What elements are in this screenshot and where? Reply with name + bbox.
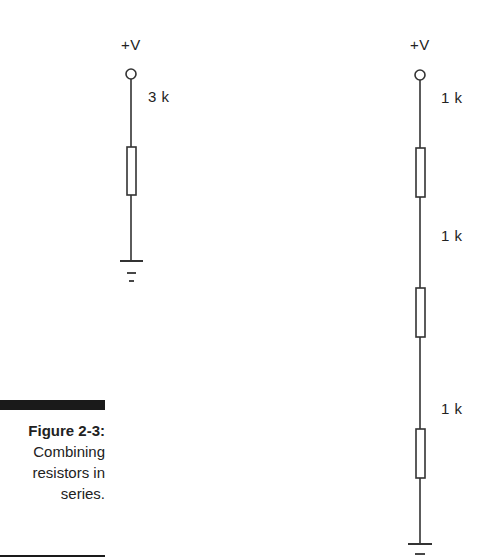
right-circuit (408, 70, 432, 554)
left-resistor-label: 3 k (148, 88, 170, 105)
right-resistor-3-label: 1 k (441, 400, 463, 417)
caption-top-bar (0, 400, 105, 410)
caption-line-1: Combining (0, 441, 105, 462)
right-resistor-1-label: 1 k (441, 89, 463, 106)
resistor-icon (416, 288, 425, 337)
left-circuit (120, 69, 143, 281)
caption-line-2: resistors in (0, 462, 105, 483)
right-supply-label: +V (410, 36, 430, 53)
figure-number: Figure 2-3: (0, 420, 105, 441)
resistor-icon (416, 429, 425, 478)
ground-icon (120, 261, 143, 281)
caption-bottom-rule (0, 555, 105, 557)
figure-caption: Figure 2-3: Combining resistors in serie… (0, 420, 105, 504)
supply-terminal-icon (415, 70, 425, 80)
resistor-icon (127, 147, 136, 195)
ground-icon (408, 544, 432, 554)
caption-line-3: series. (0, 483, 105, 504)
left-supply-label: +V (121, 36, 141, 53)
resistor-icon (416, 148, 425, 197)
supply-terminal-icon (126, 69, 136, 79)
right-resistor-2-label: 1 k (441, 227, 463, 244)
